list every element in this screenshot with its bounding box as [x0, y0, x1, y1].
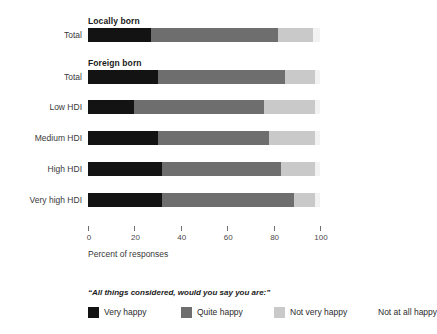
- bar-row-label: Total: [0, 72, 82, 82]
- stacked-bar: [88, 131, 320, 145]
- legend-swatch: [274, 307, 285, 318]
- legend-label: Not very happy: [290, 306, 347, 318]
- x-axis-tick-label: 100: [314, 233, 327, 242]
- legend-label: Not at all happy: [378, 306, 437, 318]
- x-axis-tick: [227, 226, 228, 231]
- bar-segment-very-happy: [88, 28, 151, 42]
- bar-segment-quite-happy: [162, 193, 294, 207]
- x-axis-tick-label: 20: [131, 233, 140, 242]
- bar-segment-very-happy: [88, 131, 158, 145]
- stacked-bar: [88, 70, 320, 84]
- legend-label: Quite happy: [197, 306, 243, 318]
- stacked-bar: [88, 193, 320, 207]
- x-axis-tick-label: 40: [177, 233, 186, 242]
- bar-segment-not-very-happy: [294, 193, 315, 207]
- bar-segment-not-at-all-happy: [315, 193, 320, 207]
- bar-row: Total: [0, 28, 399, 42]
- bar-segment-quite-happy: [134, 100, 264, 114]
- legend-label: Very happy: [104, 306, 147, 318]
- bar-segment-not-very-happy: [281, 162, 316, 176]
- group-heading-locally-born: Locally born: [88, 16, 140, 26]
- bar-segment-quite-happy: [158, 70, 286, 84]
- bar-segment-very-happy: [88, 70, 158, 84]
- bar-segment-not-at-all-happy: [313, 28, 320, 42]
- bar-segment-not-at-all-happy: [315, 131, 320, 145]
- bar-segment-not-at-all-happy: [315, 162, 320, 176]
- bar-segment-very-happy: [88, 162, 162, 176]
- legend-question: “All things considered, would you say yo…: [88, 288, 270, 297]
- bar-row: Very high HDI: [0, 193, 399, 207]
- bar-row: Low HDI: [0, 100, 399, 114]
- bar-segment-not-very-happy: [278, 28, 313, 42]
- legend-swatch: [181, 307, 192, 318]
- bar-segment-not-very-happy: [285, 70, 315, 84]
- bar-segment-not-at-all-happy: [315, 100, 320, 114]
- bar-segment-quite-happy: [151, 28, 279, 42]
- bar-row-label: Very high HDI: [0, 195, 82, 205]
- group-heading-foreign-born: Foreign born: [88, 58, 142, 68]
- bar-row: High HDI: [0, 162, 399, 176]
- x-axis-tick: [88, 226, 89, 231]
- stacked-bar: [88, 162, 320, 176]
- bar-row: Total: [0, 70, 399, 84]
- chart-legend: Very happyQuite happyNot very happyNot a…: [88, 306, 399, 322]
- x-axis-tick: [181, 226, 182, 231]
- bar-segment-very-happy: [88, 193, 162, 207]
- bar-segment-not-very-happy: [269, 131, 315, 145]
- bar-row-label: Medium HDI: [0, 133, 82, 143]
- stacked-bar: [88, 28, 320, 42]
- x-axis-tick-label: 80: [270, 233, 279, 242]
- x-axis-tick: [320, 226, 321, 231]
- x-axis-title: Percent of responses: [88, 249, 168, 259]
- bar-row: Medium HDI: [0, 131, 399, 145]
- bar-row-label: High HDI: [0, 164, 82, 174]
- x-axis-tick-label: 60: [224, 233, 233, 242]
- x-axis-tick-label: 0: [87, 233, 91, 242]
- bar-row-label: Total: [0, 30, 82, 40]
- bar-segment-quite-happy: [158, 131, 269, 145]
- legend-swatch: [88, 307, 99, 318]
- bar-row-label: Low HDI: [0, 102, 82, 112]
- bar-segment-very-happy: [88, 100, 134, 114]
- x-axis-tick: [134, 226, 135, 231]
- bar-segment-not-at-all-happy: [315, 70, 320, 84]
- stacked-bar: [88, 100, 320, 114]
- bar-segment-quite-happy: [162, 162, 280, 176]
- bar-segment-not-very-happy: [264, 100, 315, 114]
- x-axis-tick: [274, 226, 275, 231]
- x-axis: 020406080100: [0, 226, 399, 256]
